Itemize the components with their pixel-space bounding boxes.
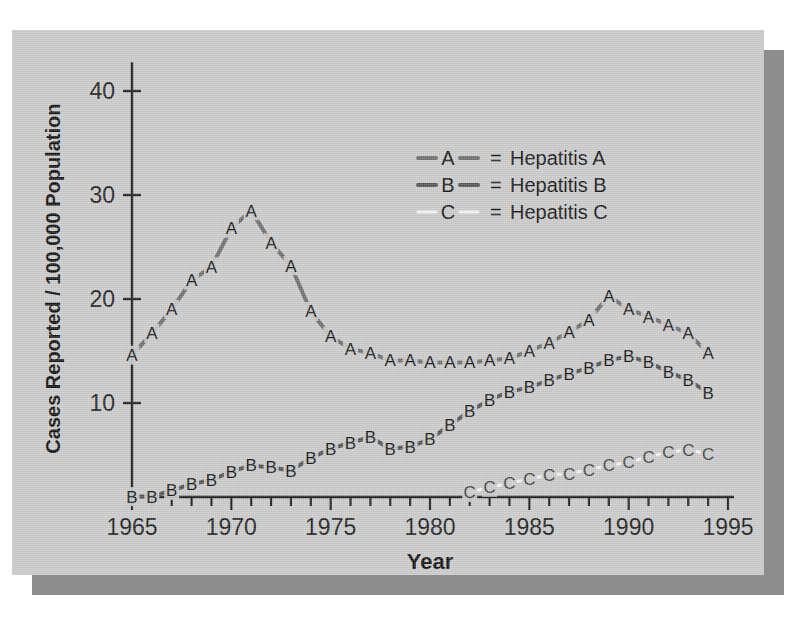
data-point-b-1971: B — [246, 456, 257, 475]
legend-label: Hepatitis C — [510, 201, 608, 223]
data-point-b-1968: B — [186, 475, 197, 494]
legend-entry-a[interactable]: A=Hepatitis A — [418, 147, 606, 169]
data-point-b-1965: B — [126, 488, 137, 507]
data-point-b-1977: B — [365, 428, 376, 447]
data-point-b-1969: B — [206, 471, 217, 490]
data-point-b-1986: B — [544, 371, 555, 390]
data-point-a-1983: A — [484, 351, 496, 370]
legend-label: Hepatitis B — [510, 174, 607, 196]
x-axis-title: Year — [407, 549, 454, 574]
data-point-c-1993: C — [682, 441, 694, 460]
data-point-b-1988: B — [583, 359, 594, 378]
data-point-b-1978: B — [385, 440, 396, 459]
data-point-b-1975: B — [325, 440, 336, 459]
data-point-b-1966: B — [146, 488, 157, 507]
data-point-c-1983: C — [483, 478, 495, 497]
data-point-b-1985: B — [524, 378, 535, 397]
data-point-a-1971: A — [246, 202, 258, 221]
x-tick-label: 1985 — [504, 514, 555, 540]
x-tick-label: 1990 — [603, 514, 654, 540]
data-point-b-1991: B — [643, 353, 654, 372]
data-point-b-1992: B — [663, 363, 674, 382]
data-point-b-1984: B — [504, 383, 515, 402]
data-point-c-1989: C — [603, 456, 615, 475]
legend-label: Hepatitis A — [510, 147, 606, 169]
data-point-c-1985: C — [523, 470, 535, 489]
data-point-a-1990: A — [623, 300, 635, 319]
data-point-a-1986: A — [544, 334, 556, 353]
data-point-b-1976: B — [345, 434, 356, 453]
data-point-b-1989: B — [603, 351, 614, 370]
data-point-a-1992: A — [663, 316, 675, 335]
data-point-a-1972: A — [265, 234, 277, 253]
data-point-a-1973: A — [285, 257, 297, 276]
data-point-a-1978: A — [385, 351, 397, 370]
data-point-b-1974: B — [305, 449, 316, 468]
data-point-b-1990: B — [623, 347, 634, 366]
y-axis-title: Cases Reported / 100,000 Population — [42, 104, 64, 454]
data-point-a-1981: A — [444, 353, 456, 372]
series-group: AAAAAAAAAAAAAAAAAAAAAAAAAAAAAABBBBBBBBBB… — [125, 201, 716, 507]
data-point-a-1991: A — [643, 308, 655, 327]
legend-marker-letter: A — [441, 147, 455, 169]
y-tick-label: 10 — [89, 390, 115, 416]
legend-marker-letter: C — [441, 201, 455, 223]
legend-entry-b[interactable]: B=Hepatitis B — [418, 174, 607, 196]
hepatitis-line-chart: 102030401965197019751980198519901995 AAA… — [0, 0, 811, 625]
series-b: BBBBBBBBBBBBBBBBBBBBBBBBBBBBBB — [125, 347, 716, 507]
data-point-a-1979: A — [404, 351, 416, 370]
data-point-c-1982: C — [464, 483, 476, 502]
data-point-a-1974: A — [305, 302, 317, 321]
data-point-a-1989: A — [603, 287, 615, 306]
legend-equals-sign: = — [490, 174, 502, 196]
data-point-b-1983: B — [484, 391, 495, 410]
data-point-c-1986: C — [543, 466, 555, 485]
x-tick-label: 1975 — [305, 514, 356, 540]
data-point-b-1979: B — [404, 438, 415, 457]
data-point-b-1980: B — [424, 430, 435, 449]
data-point-b-1970: B — [226, 463, 237, 482]
y-tick-label: 20 — [89, 286, 115, 312]
legend-group: A=Hepatitis AB=Hepatitis BC=Hepatitis C — [418, 147, 608, 223]
data-point-c-1990: C — [623, 453, 635, 472]
data-point-a-1970: A — [226, 219, 238, 238]
data-point-b-1967: B — [166, 481, 177, 500]
data-point-c-1984: C — [503, 474, 515, 493]
x-tick-label: 1995 — [702, 514, 753, 540]
data-point-c-1991: C — [642, 448, 654, 467]
data-point-b-1994: B — [702, 384, 713, 403]
data-point-c-1994: C — [702, 445, 714, 464]
data-point-a-1967: A — [166, 300, 178, 319]
data-point-a-1984: A — [504, 349, 516, 368]
page-root: 102030401965197019751980198519901995 AAA… — [0, 0, 811, 625]
data-point-a-1994: A — [702, 344, 714, 363]
data-point-b-1972: B — [265, 458, 276, 477]
x-tick-label: 1970 — [206, 514, 257, 540]
legend-equals-sign: = — [490, 201, 502, 223]
axis-titles-group: YearCases Reported / 100,000 Population — [42, 104, 454, 574]
axes-group: 102030401965197019751980198519901995 — [89, 62, 753, 540]
x-tick-label: 1980 — [404, 514, 455, 540]
data-point-a-1977: A — [365, 344, 377, 363]
data-point-b-1981: B — [444, 416, 455, 435]
legend-marker-letter: B — [441, 174, 454, 196]
y-tick-label: 30 — [89, 182, 115, 208]
data-point-a-1965: A — [126, 346, 138, 365]
data-point-b-1987: B — [563, 365, 574, 384]
legend-entry-c[interactable]: C=Hepatitis C — [418, 201, 608, 223]
data-point-a-1968: A — [186, 271, 198, 290]
data-point-a-1993: A — [683, 324, 695, 343]
series-line-a — [132, 211, 708, 363]
series-c: CCCCCCCCCCCCC — [462, 440, 715, 502]
data-point-b-1993: B — [683, 371, 694, 390]
legend-equals-sign: = — [490, 147, 502, 169]
data-point-a-1987: A — [563, 323, 575, 342]
y-tick-label: 40 — [89, 78, 115, 104]
data-point-a-1966: A — [146, 324, 158, 343]
data-point-c-1992: C — [662, 443, 674, 462]
data-point-a-1980: A — [424, 353, 436, 372]
data-point-a-1969: A — [206, 258, 218, 277]
data-point-a-1975: A — [325, 327, 337, 346]
data-point-a-1976: A — [345, 340, 357, 359]
data-point-a-1988: A — [583, 311, 595, 330]
